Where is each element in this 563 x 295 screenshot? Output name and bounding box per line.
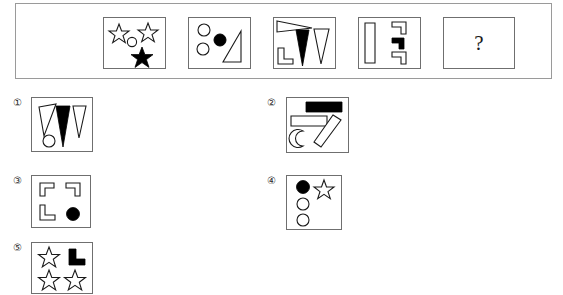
star-outline-topleft [109,24,129,43]
l-corner-outline-bottomleft [40,205,55,220]
cell-4-shapes [359,18,420,68]
narrow-triangle-outline [314,29,329,64]
circle-outline-bottomleft [43,135,55,147]
rectangle-filled-top [306,102,342,112]
option-4-label: ④ [264,175,278,187]
narrow-triangle-outline-left [39,104,56,136]
l-corner-outline-bottomleft [278,48,293,64]
sequence-cell-4 [358,17,421,69]
circle-outline-center [127,37,136,46]
star-filled-bottom [131,47,153,67]
right-triangle-outline [223,31,241,62]
sequence-cell-3 [273,17,336,69]
circle-outline-top [198,24,210,36]
option-3-shapes [32,176,90,227]
cell-1-shapes [104,18,165,68]
circle-outline-bottom [197,43,209,55]
star-outline-topright [314,180,334,199]
option-2-label: ② [264,97,278,109]
option-5-label: ⑤ [10,242,24,254]
star-outline-topleft [39,247,60,267]
narrow-triangle-outline-right [73,106,86,138]
rectangle-outline-upper [291,116,327,126]
puzzle-stage: ? ① ② ③ [0,0,563,295]
sequence-cell-question: ? [443,17,515,69]
star-outline-topright [138,23,158,42]
option-4-box[interactable] [286,175,342,230]
star-outline-bottomleft [39,270,60,290]
sequence-cell-2 [188,17,251,69]
option-5-shapes [32,243,92,293]
option-3-label: ③ [10,175,24,187]
circle-filled [214,34,226,46]
l-corner-filled-mid [392,38,404,49]
sequence-cell-1 [103,17,166,69]
option-1-box[interactable] [31,97,93,152]
option-3-box[interactable] [31,175,91,228]
circle-outline-bottom [297,214,309,226]
l-corner-outline-topleft [40,183,54,196]
l-corner-filled-topright [69,249,85,265]
option-2-shapes [287,98,348,152]
option-2-box[interactable] [286,97,349,153]
star-outline-bottomright [65,270,86,290]
bar-outline-left [365,23,375,63]
cell-3-shapes [274,18,335,68]
l-corner-outline-topright [66,183,80,196]
circle-filled-bottomright [67,208,80,221]
narrow-triangle-filled [296,30,309,66]
option-5-box[interactable] [31,242,93,294]
crescent-outline [289,130,303,148]
narrow-triangle-filled-center [56,106,70,147]
l-corner-outline-bottom [392,52,406,64]
option-1-shapes [32,98,92,151]
circle-filled-top [297,181,310,194]
option-1-label: ① [10,97,24,109]
cell-2-shapes [189,18,250,68]
question-mark: ? [444,18,514,68]
sequence-strip: ? [15,3,552,79]
circle-outline-mid [297,198,309,210]
option-4-shapes [287,176,341,229]
l-corner-outline-top [392,22,406,34]
